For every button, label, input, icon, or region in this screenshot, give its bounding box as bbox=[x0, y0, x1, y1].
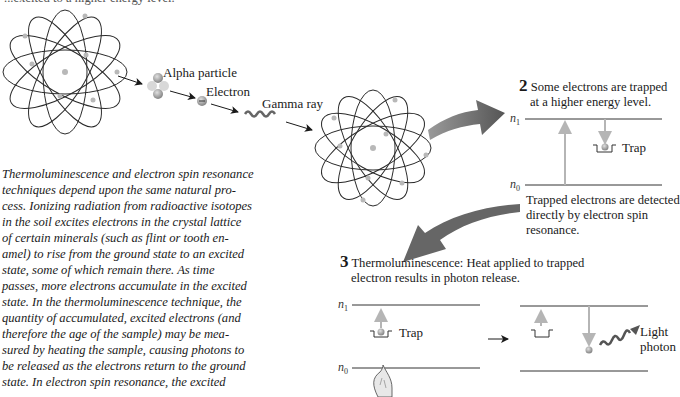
flame-icon bbox=[374, 365, 392, 397]
step3-trap-label: Trap bbox=[399, 325, 423, 340]
electron-label: Electron bbox=[206, 84, 250, 99]
step2-caption: 2 Some electrons are trapped at a higher… bbox=[519, 78, 667, 110]
arrow-icon bbox=[211, 104, 238, 112]
arrow-icon bbox=[118, 76, 142, 84]
light-photon-icon bbox=[600, 330, 630, 345]
arrow-icon bbox=[286, 122, 312, 130]
gamma-ray-label: Gamma ray bbox=[262, 96, 323, 111]
step2-trap-label: Trap bbox=[622, 140, 646, 155]
step3-n0-label: n0 bbox=[338, 360, 348, 376]
step3-n1-label: n1 bbox=[338, 297, 348, 313]
step3-number: 3 bbox=[340, 252, 349, 271]
step3-after-diagram bbox=[520, 306, 648, 371]
step2-number: 2 bbox=[519, 76, 528, 95]
step3-caption: 3 Thermoluminescence: Heat applied to tr… bbox=[340, 254, 584, 286]
esr-caption: Trapped electrons are detected directly … bbox=[526, 193, 680, 238]
step2-n1-label: n1 bbox=[510, 111, 520, 127]
arrow-icon bbox=[170, 91, 195, 98]
step2-n0-label: n0 bbox=[510, 177, 520, 193]
alpha-particle-label: Alpha particle bbox=[163, 65, 237, 80]
gamma-ray-icon bbox=[245, 112, 275, 117]
atom-icon bbox=[0, 7, 129, 136]
explanation-paragraph: Thermoluminescence and electron spin res… bbox=[2, 166, 332, 390]
light-photon-label: Light photon bbox=[640, 324, 676, 354]
big-curved-arrow-right-icon bbox=[428, 100, 505, 140]
